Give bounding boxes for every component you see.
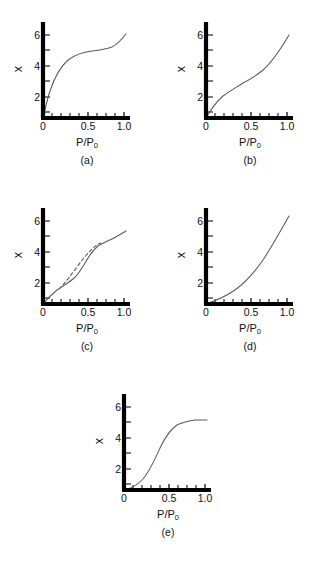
x-tick-label-a-0: 0 — [30, 120, 56, 132]
x-axis-title-a: P/P0 — [64, 136, 110, 148]
panel-e: x 6 4 2 — [103, 386, 216, 504]
desorption-branch-curve-c — [59, 243, 101, 289]
x-axis-title-text-a: P/P — [76, 136, 94, 148]
y-tick-label-c-2: 2 — [26, 277, 40, 289]
x-axis-title-c: P/P0 — [64, 322, 110, 334]
x-axis-title-b: P/P0 — [227, 136, 273, 148]
isotherm-curve-a — [43, 34, 126, 118]
y-axis-label-b: x — [174, 62, 188, 76]
x-tick-label-c-10: 1.0 — [111, 306, 137, 318]
panel-b: x 6 4 2 — [185, 14, 298, 132]
plot-area-e: x 6 4 2 — [103, 386, 216, 504]
x-axis-title-text-d: P/P — [239, 322, 257, 334]
y-tick-label-a-2: 2 — [26, 91, 40, 103]
adsorption-branch-curve-c — [43, 231, 126, 304]
caption-c: (c) — [67, 340, 107, 352]
y-tick-label-e-4: 4 — [107, 432, 121, 444]
x-tick-label-a-10: 1.0 — [111, 120, 137, 132]
x-tick-label-d-05: 0.5 — [238, 306, 264, 318]
y-tick-label-d-2: 2 — [189, 277, 203, 289]
panel-d: x 6 4 2 — [185, 200, 298, 318]
y-tick-label-b-6: 6 — [189, 29, 203, 41]
y-tick-label-a-4: 4 — [26, 60, 40, 72]
x-axis-title-text-b: P/P — [239, 136, 257, 148]
isotherm-curve-e — [124, 420, 207, 490]
y-tick-label-b-4: 4 — [189, 60, 203, 72]
y-tick-label-e-6: 6 — [107, 401, 121, 413]
panel-a: x 6 4 2 — [22, 14, 135, 132]
caption-a: (a) — [67, 154, 107, 166]
x-axis-title-sub-b: 0 — [257, 141, 261, 150]
x-axis-title-text-c: P/P — [76, 322, 94, 334]
x-axis-title-e: P/P0 — [145, 508, 191, 520]
y-tick-label-c-6: 6 — [26, 215, 40, 227]
caption-d: (d) — [230, 340, 270, 352]
plot-area-c: x 6 4 2 — [22, 200, 135, 318]
panel-c: x 6 4 2 — [22, 200, 135, 318]
y-axis-label-e: x — [92, 434, 106, 448]
y-axis-label-c: x — [11, 248, 25, 262]
x-tick-label-c-0: 0 — [30, 306, 56, 318]
isotherm-curve-d — [206, 216, 289, 304]
plot-area-b: x 6 4 2 — [185, 14, 298, 132]
y-tick-label-b-2: 2 — [189, 91, 203, 103]
isotherm-curve-b — [206, 35, 289, 118]
y-tick-label-d-6: 6 — [189, 215, 203, 227]
caption-b: (b) — [230, 154, 270, 166]
x-tick-label-d-0: 0 — [193, 306, 219, 318]
plot-area-d: x 6 4 2 — [185, 200, 298, 318]
x-axis-title-text-e: P/P — [157, 508, 175, 520]
x-tick-label-e-0: 0 — [111, 492, 137, 504]
plot-area-a: x 6 4 2 — [22, 14, 135, 132]
x-axis-title-sub-a: 0 — [94, 141, 98, 150]
x-axis-title-sub-c: 0 — [94, 327, 98, 336]
y-tick-label-e-2: 2 — [107, 463, 121, 475]
x-tick-label-c-05: 0.5 — [75, 306, 101, 318]
x-tick-label-b-10: 1.0 — [274, 120, 300, 132]
y-axis-label-a: x — [11, 62, 25, 76]
x-tick-label-a-05: 0.5 — [75, 120, 101, 132]
x-axis-title-sub-d: 0 — [257, 327, 261, 336]
x-axis-title-sub-e: 0 — [175, 513, 179, 522]
y-axis-label-d: x — [174, 248, 188, 262]
y-tick-label-c-4: 4 — [26, 246, 40, 258]
x-tick-label-b-05: 0.5 — [238, 120, 264, 132]
x-tick-label-e-10: 1.0 — [192, 492, 218, 504]
y-tick-label-d-4: 4 — [189, 246, 203, 258]
x-tick-label-e-05: 0.5 — [156, 492, 182, 504]
y-tick-label-a-6: 6 — [26, 29, 40, 41]
x-tick-label-b-0: 0 — [193, 120, 219, 132]
caption-e: (e) — [148, 526, 188, 538]
x-tick-label-d-10: 1.0 — [274, 306, 300, 318]
x-axis-title-d: P/P0 — [227, 322, 273, 334]
